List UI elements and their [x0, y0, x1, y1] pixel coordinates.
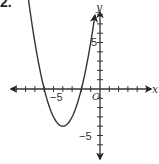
y-axis-label: y [95, 1, 103, 14]
y-tick-label-neg5: −5 [79, 130, 92, 142]
x-tick-label-neg5: −5 [50, 91, 63, 103]
parabola-chart: y x O −5 5 −5 [0, 0, 159, 164]
x-axis-label: x [152, 83, 159, 96]
origin-label: O [92, 91, 100, 102]
parabola-curve [26, 0, 95, 126]
y-tick-label-5: 5 [91, 36, 97, 48]
